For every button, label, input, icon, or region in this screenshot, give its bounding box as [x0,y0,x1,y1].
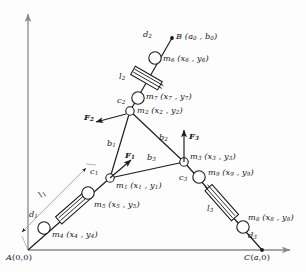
diagram-svg [0,0,306,272]
label-C-point: C(a,0) [244,253,270,261]
figure-canvas: A(0,0) C(a,0) B (a0 , b0) d1 d2 d3 c1 c2… [0,0,306,272]
joint-m7 [132,92,144,104]
label-l2: l2 [119,72,125,82]
label-F2: F2 [84,113,94,123]
joint-m6 [149,52,161,64]
label-b2: b2 [159,133,168,143]
leg-3-slider [203,182,239,220]
label-m3: m3 (x3 , y3) [190,152,236,162]
label-m6: m6 (x6 , y6) [163,54,209,64]
label-A-origin: A(0,0) [6,253,32,261]
label-m9: m9 (x9 , y9) [208,168,254,178]
label-d3: d3 [248,231,257,241]
label-b1: b1 [107,139,116,149]
label-F3: F3 [189,132,199,142]
platform-edge-b2 [130,111,184,162]
label-m4: m4 (x4 , y4) [52,230,98,240]
label-d1: d1 [29,210,38,220]
joint-m4 [38,222,50,234]
joint-m2 [126,107,134,115]
label-B-point: B (a0 , b0) [176,32,217,42]
joint-m5 [82,187,94,199]
label-F1: F1 [125,151,135,161]
label-m2: m2 (x2 , y2) [137,106,183,116]
label-d2: d2 [143,30,152,40]
label-b3: b3 [147,153,156,163]
force-F2-arrow [96,114,126,122]
label-c2: c2 [117,96,125,106]
label-m5: m5 (x5 , y5) [94,200,140,210]
label-c1: c1 [90,167,98,177]
point-B [170,36,174,40]
leg-2-slider [131,66,165,91]
label-m8: m8 (x8 , y8) [248,213,294,223]
label-m7: m7 (x7 , y7) [146,92,192,102]
platform-edge-b3 [110,162,184,178]
label-c3: c3 [179,173,187,183]
label-l3: l3 [207,204,213,214]
label-m1: m1 (x1 , y1) [116,181,162,191]
joint-m9 [193,171,205,183]
